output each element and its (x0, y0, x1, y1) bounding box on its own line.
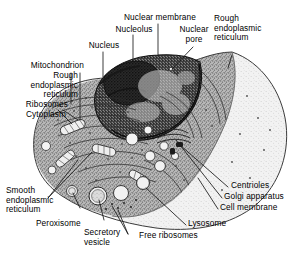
label-centrioles: Centrioles (231, 181, 291, 191)
label-cell-membrane: Cell membrane (220, 203, 294, 213)
label-nuclear-pore: Nuclear pore (168, 25, 220, 44)
label-free-ribosomes: Free ribosomes (139, 231, 217, 241)
label-lysosome: Lysosome (188, 219, 248, 229)
label-cytoplasm: Cytoplasm (2, 110, 66, 120)
label-rough-endoplasmic-reticulum-top: Rough endoplasmic reticulum (214, 14, 280, 43)
cell-diagram-figure: Nucleus Nucleolus Nuclear membrane Nucle… (0, 0, 301, 263)
label-nuclear-membrane: Nuclear membrane (112, 13, 208, 23)
label-nucleolus: Nucleolus (105, 25, 163, 35)
label-rough-endoplasmic-reticulum-left: Rough endoplasmic reticulum (8, 71, 78, 100)
label-nucleus: Nucleus (78, 41, 130, 51)
label-secretory-vesicle: Secretory vesicle (84, 228, 134, 247)
label-golgi-apparatus: Golgi apparatus (224, 192, 298, 202)
label-smooth-endoplasmic-reticulum: Smooth endoplasmic reticulum (6, 186, 70, 215)
